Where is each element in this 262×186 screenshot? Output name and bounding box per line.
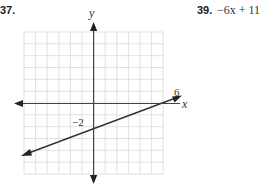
x-axis-left-arrow-icon bbox=[14, 100, 23, 107]
plotted-line bbox=[21, 96, 182, 157]
y-intercept-label: −2 bbox=[72, 116, 84, 128]
x-axis-label: x bbox=[181, 97, 188, 111]
y-axis-up-arrow-icon bbox=[90, 22, 97, 31]
coordinate-graph: y x 6 −2 bbox=[0, 0, 262, 186]
x-intercept-label: 6 bbox=[174, 86, 180, 98]
y-axis-down-arrow-icon bbox=[90, 175, 97, 184]
y-axis-label: y bbox=[88, 6, 95, 20]
